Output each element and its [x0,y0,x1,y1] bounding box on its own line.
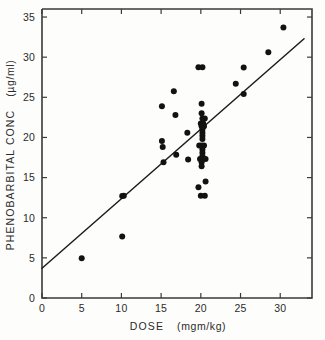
data-point [241,91,247,97]
x-axis-title-unit: (mgm/kg) [177,320,226,332]
plot-canvas: 051015202530 05101520253035 DOSE (mgm/kg… [0,0,325,340]
y-axis-title-main: PHENOBARBITAL CONC [4,110,16,251]
data-point [199,163,205,169]
y-tick-label: 30 [23,51,35,63]
data-point [159,103,165,109]
scatter-plot-figure: 051015202530 05101520253035 DOSE (mgm/kg… [0,0,325,340]
x-tick-label: 20 [195,302,207,314]
x-axis-tick-labels: 051015202530 [39,302,286,314]
data-point [280,24,286,30]
x-tick-label: 0 [39,302,45,314]
data-point [199,64,205,70]
data-point [173,152,179,158]
y-axis-tick-labels: 05101520253035 [23,11,35,304]
data-point [265,49,271,55]
y-tick-label: 5 [29,252,35,264]
data-point [203,179,209,185]
data-point [172,112,178,118]
data-point [199,110,205,116]
x-axis-ticks [42,9,280,298]
data-point [171,88,177,94]
data-point [241,65,247,71]
data-point [79,255,85,261]
data-point [121,193,127,199]
data-point [199,101,205,107]
y-axis-title: PHENOBARBITAL CONC (µg/ml) [4,60,16,251]
x-axis-title: DOSE (mgm/kg) [130,320,226,332]
data-point [233,81,239,87]
data-point [184,130,190,136]
y-axis-title-unit: (µg/ml) [4,60,16,97]
y-tick-label: 10 [23,212,35,224]
data-point [185,157,191,163]
x-tick-label: 5 [79,302,85,314]
data-point [199,136,205,142]
data-point [159,138,165,144]
x-tick-label: 25 [234,302,246,314]
y-tick-label: 25 [23,91,35,103]
data-point [160,144,166,150]
regression-line [42,39,304,269]
data-point [161,159,167,165]
y-tick-label: 20 [23,131,35,143]
x-tick-label: 30 [274,302,286,314]
data-point [195,184,201,190]
x-tick-label: 15 [155,302,167,314]
x-tick-label: 10 [115,302,127,314]
regression-line-segment [42,39,304,269]
y-tick-label: 35 [23,11,35,23]
x-axis-title-main: DOSE [130,320,164,332]
y-tick-label: 0 [29,292,35,304]
data-points [79,24,287,261]
data-point [119,234,125,240]
data-point [202,193,208,199]
y-tick-label: 15 [23,171,35,183]
